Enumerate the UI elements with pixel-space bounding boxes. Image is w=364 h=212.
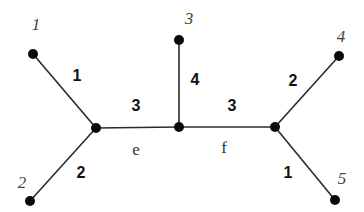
leaf-label: 1: [32, 15, 41, 34]
internal-node: [174, 122, 184, 132]
leaf-label: 5: [338, 169, 347, 188]
edge-leaf1-int1: [33, 54, 96, 128]
edge-weight: 3: [228, 97, 237, 114]
internal-node: [91, 123, 101, 133]
tree-diagram: 123e43f2112345: [0, 0, 364, 212]
leaf-node-3: [174, 35, 184, 45]
leaf-node-2: [25, 196, 35, 206]
nodes: [25, 35, 344, 206]
leaf-node-4: [334, 51, 344, 61]
edge-weight: 2: [289, 72, 298, 89]
leaf-node-1: [28, 49, 38, 59]
edge-weight: 4: [191, 71, 200, 88]
leaf-label: 4: [337, 27, 346, 46]
edge-int1-int2: [96, 127, 179, 128]
edge-weight: 1: [284, 164, 293, 181]
edge-name-f: f: [221, 138, 227, 157]
edge-weight: 1: [73, 67, 82, 84]
edge-leaf2-int1: [30, 128, 96, 201]
edge-weight: 2: [77, 164, 86, 181]
leaf-node-5: [330, 195, 340, 205]
internal-node: [270, 122, 280, 132]
leaf-label: 2: [18, 173, 27, 192]
edge-weight: 3: [132, 97, 141, 114]
edge-name-e: e: [132, 140, 140, 159]
leaf-label: 3: [184, 9, 194, 28]
edge-leaf4-int3: [275, 56, 339, 127]
